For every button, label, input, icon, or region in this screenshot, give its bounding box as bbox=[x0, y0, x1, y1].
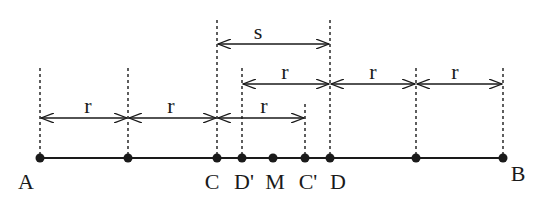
point-d bbox=[326, 154, 335, 163]
interval-arrows bbox=[41, 44, 502, 118]
point-p2 bbox=[412, 154, 421, 163]
point-m bbox=[269, 154, 278, 163]
interval-diagram: s r r r r r r A C D' M C' D B bbox=[0, 0, 537, 199]
label-r-c-cprime: r bbox=[260, 93, 268, 118]
label-r-p2-b: r bbox=[451, 59, 459, 84]
point-c-prime bbox=[301, 154, 310, 163]
label-b: B bbox=[511, 161, 526, 186]
label-c: C bbox=[205, 169, 220, 194]
dashed-guides bbox=[40, 20, 503, 156]
label-r-dprime-d: r bbox=[281, 59, 289, 84]
label-d-prime: D' bbox=[234, 169, 254, 194]
label-r-a-p1: r bbox=[84, 93, 92, 118]
point-d-prime bbox=[238, 154, 247, 163]
point-c bbox=[213, 154, 222, 163]
point-a bbox=[36, 154, 45, 163]
label-a: A bbox=[18, 169, 34, 194]
label-c-prime: C' bbox=[299, 169, 318, 194]
label-m: M bbox=[265, 169, 285, 194]
point-p1 bbox=[124, 154, 133, 163]
label-d: D bbox=[330, 169, 346, 194]
label-s: s bbox=[254, 19, 263, 44]
label-r-d-p2: r bbox=[369, 59, 377, 84]
label-r-p1-c: r bbox=[167, 93, 175, 118]
point-b bbox=[499, 154, 508, 163]
